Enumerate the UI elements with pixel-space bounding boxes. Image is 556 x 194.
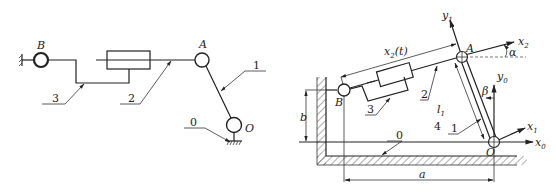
svg-text:α: α xyxy=(509,46,517,59)
link-1 xyxy=(206,66,231,118)
svg-text:l1: l1 xyxy=(437,103,445,118)
x0-label: x0 xyxy=(535,136,546,151)
left-kinematic-schematic: B A O 3 2 xyxy=(19,38,266,145)
leader-1: 1 xyxy=(221,59,266,91)
dimension-a: a xyxy=(345,168,493,181)
svg-text:2: 2 xyxy=(128,92,135,105)
svg-text:0: 0 xyxy=(190,116,197,129)
slider-cylinder xyxy=(376,63,413,87)
joint-a-label: A xyxy=(465,42,474,55)
joint-b xyxy=(34,53,48,67)
ground-symbol-o xyxy=(227,133,242,145)
link-4-label: 4 xyxy=(434,120,441,133)
x2-label: x2 xyxy=(518,35,529,50)
svg-text:3: 3 xyxy=(52,92,59,105)
leader-2: 2 xyxy=(420,66,437,101)
svg-text:3: 3 xyxy=(367,103,374,116)
joint-b xyxy=(338,84,350,96)
ground-symbol-b xyxy=(19,54,34,66)
y0-label: y0 xyxy=(496,70,508,85)
alpha-arc xyxy=(504,45,507,57)
joint-o-label: O xyxy=(486,146,495,159)
link-1 xyxy=(460,56,497,141)
svg-text:x2(t): x2(t) xyxy=(384,45,408,60)
y1-label: y1 xyxy=(441,9,453,24)
svg-text:0: 0 xyxy=(396,129,403,142)
joint-o-label: O xyxy=(245,122,254,135)
joint-a-label: A xyxy=(198,38,207,51)
svg-text:2: 2 xyxy=(421,88,428,101)
dimension-l1: l1 xyxy=(437,63,484,139)
mechanism-diagrams: B A O 3 2 xyxy=(0,0,556,194)
joint-o xyxy=(227,118,242,133)
svg-text:a: a xyxy=(419,168,426,181)
joint-b-label: B xyxy=(36,39,45,52)
svg-text:1: 1 xyxy=(253,59,260,72)
right-kinematic-diagram: x0 b a x2 α xyxy=(299,9,546,182)
x1-label: x1 xyxy=(527,120,538,135)
joint-b-label: B xyxy=(334,96,343,109)
leader-3: 3 xyxy=(42,84,84,105)
leader-0: 0 xyxy=(184,116,230,142)
leader-1: 1 xyxy=(448,119,481,135)
joint-a xyxy=(195,53,209,67)
svg-text:b: b xyxy=(300,111,307,124)
svg-text:1: 1 xyxy=(451,122,458,135)
svg-text:β: β xyxy=(481,85,488,98)
